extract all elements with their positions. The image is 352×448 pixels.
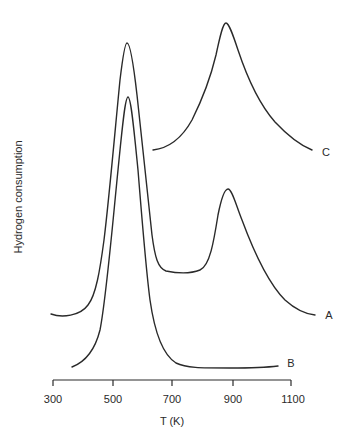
series-label-c: C bbox=[322, 146, 330, 158]
x-axis-title: T (K) bbox=[160, 415, 184, 427]
series-label-a: A bbox=[325, 309, 333, 321]
series-label-b: B bbox=[287, 357, 294, 369]
tpr-chart: 300 500 700 900 1100 T (K) Hydrogen cons… bbox=[0, 0, 352, 448]
x-tick-label: 700 bbox=[163, 393, 181, 405]
curve-c bbox=[153, 23, 312, 150]
x-tick-label: 1100 bbox=[281, 393, 305, 405]
curve-a bbox=[51, 43, 315, 316]
x-tick-label: 900 bbox=[224, 393, 242, 405]
x-axis: 300 500 700 900 1100 T (K) bbox=[44, 380, 305, 427]
y-axis-title: Hydrogen consumption bbox=[12, 140, 24, 253]
x-tick-label: 500 bbox=[104, 393, 122, 405]
x-tick-label: 300 bbox=[44, 393, 62, 405]
